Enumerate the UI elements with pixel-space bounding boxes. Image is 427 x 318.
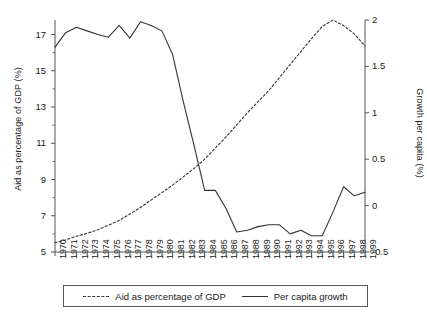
legend-item-aid: Aid as percentage of GDP — [83, 291, 225, 302]
per-capita-growth-line — [55, 22, 365, 236]
legend-label-aid: Aid as percentage of GDP — [115, 291, 225, 302]
chart-container: Aid as percentage of GDP (%) Growth per … — [0, 0, 427, 318]
legend-label-growth: Per capita growth — [274, 291, 348, 302]
aid-percentage-line — [55, 20, 365, 243]
legend-item-growth: Per capita growth — [242, 291, 348, 302]
chart-legend: Aid as percentage of GDP Per capita grow… — [63, 285, 368, 307]
plot-area — [0, 0, 427, 318]
dashed-line-swatch-icon — [83, 296, 109, 297]
solid-line-swatch-icon — [242, 296, 268, 297]
axes-group — [51, 20, 369, 256]
